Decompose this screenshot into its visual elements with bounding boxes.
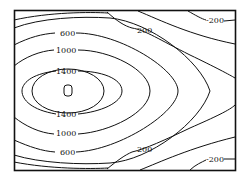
label-neg200-top: -200: [206, 16, 224, 25]
label-1400-top: 1400: [56, 67, 76, 76]
contour-plot: 600 1000 1400 1400 1000 600 200 200 -200…: [0, 0, 250, 181]
label-600-bottom: 600: [60, 148, 75, 157]
label-1000-bottom: 1000: [56, 129, 76, 138]
label-600-top: 600: [60, 29, 75, 38]
label-200-top: 200: [137, 26, 152, 35]
label-200-bottom: 200: [137, 145, 152, 154]
label-neg200-bottom: -200: [206, 155, 224, 164]
contour-lines: [14, 11, 235, 170]
label-1400-bottom: 1400: [56, 110, 76, 119]
contour-labels: 600 1000 1400 1400 1000 600 200 200 -200…: [56, 16, 224, 164]
label-1000-top: 1000: [56, 46, 76, 55]
